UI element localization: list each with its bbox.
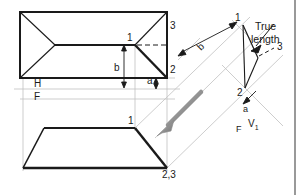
top-view-edge-1-2 <box>135 45 167 78</box>
aux-dim-b-arrow-right <box>229 22 237 29</box>
aux-dim-b-line <box>182 26 232 52</box>
aux-fold-line-fv1 <box>222 65 283 126</box>
aux-edge-tl-2 <box>245 58 258 88</box>
aux-projector-1 <box>135 17 250 128</box>
label-aux-reference-v1-subscript: 1 <box>255 124 259 131</box>
label-front-view-point-23: 2,3 <box>162 170 176 180</box>
label-aux-reference-v1: V1 <box>248 119 259 131</box>
top-view <box>20 12 167 78</box>
label-top-view-point-2: 2 <box>170 65 176 75</box>
top-view-edge-1-3 <box>135 12 167 45</box>
dimension-a <box>154 78 158 89</box>
label-top-view-point-1: 1 <box>127 33 133 43</box>
front-view <box>23 128 167 168</box>
label-top-view-point-3: 3 <box>170 21 176 31</box>
front-view-right-slope <box>135 128 167 168</box>
label-front-view-point-1: 1 <box>128 116 134 126</box>
technical-drawing-figure: 1 3 2 b a H F 1 2,3 b 1 3 2 a F V1 True … <box>0 0 307 195</box>
top-view-fold-edge-b <box>20 45 55 78</box>
label-aux-point-1: 1 <box>235 13 241 23</box>
label-true-length-line1: True <box>255 20 276 32</box>
front-view-left-slope <box>23 128 44 168</box>
top-view-fold-edge-a <box>20 12 55 45</box>
label-true-length-line2: length <box>251 33 280 45</box>
label-reference-h: H <box>34 79 41 89</box>
aux-dashed-to-3 <box>259 48 274 56</box>
arrow-head <box>157 120 174 136</box>
label-dimension-b: b <box>114 63 120 73</box>
aux-edge-1-2 <box>243 25 245 88</box>
label-aux-reference-v1-letter: V <box>248 118 255 129</box>
dimension-b <box>122 45 127 88</box>
label-reference-f: F <box>34 92 40 102</box>
label-dimension-a: a <box>147 76 153 86</box>
dimension-b-arrow-down <box>122 82 127 88</box>
arrow-shaft <box>168 92 201 125</box>
label-aux-point-2: 2 <box>237 88 243 98</box>
label-aux-reference-f: F <box>236 125 242 134</box>
label-aux-dimension-a: a <box>243 105 248 114</box>
dimension-a-arrow-down <box>154 84 158 89</box>
